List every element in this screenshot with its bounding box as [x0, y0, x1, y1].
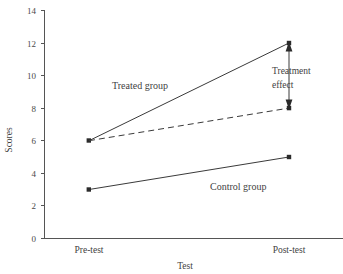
series-label-control-group: Control group: [210, 181, 266, 192]
treatment-effect-annotation: Treatment effect: [272, 42, 311, 110]
y-axis-ticks: [41, 11, 45, 239]
y-tick-label-10: 10: [27, 71, 37, 81]
x-tick-label-post-test: Post-test: [273, 245, 306, 255]
y-tick-label-14: 14: [27, 6, 37, 16]
y-tick-label-0: 0: [32, 234, 37, 244]
y-tick-label-2: 2: [32, 201, 37, 211]
chart-figure: 14 12 10 8 6 4 2 0 Pre-test Post-test Te…: [0, 0, 343, 274]
y-axis-tick-labels: 14 12 10 8 6 4 2 0: [27, 6, 37, 244]
series-treated-group: [87, 41, 292, 143]
line-chart-canvas: 14 12 10 8 6 4 2 0 Pre-test Post-test Te…: [0, 0, 343, 274]
y-axis-title: Scores: [4, 127, 14, 153]
y-tick-label-4: 4: [32, 169, 37, 179]
y-tick-label-8: 8: [32, 104, 37, 114]
treated-group-line: [89, 43, 289, 141]
series-label-treated-group: Treated group: [112, 80, 168, 91]
x-axis-tick-labels: Pre-test Post-test: [74, 245, 305, 255]
treatment-effect-label-line2: effect: [272, 80, 294, 90]
y-tick-label-12: 12: [27, 39, 36, 49]
x-tick-label-pre-test: Pre-test: [74, 245, 103, 255]
control-group-point-post-test: [287, 155, 291, 159]
axes-group: [45, 10, 343, 239]
projected-baseline-line: [89, 108, 289, 141]
treatment-effect-arrow-head-up: [286, 42, 293, 52]
control-group-point-pre-test: [87, 187, 91, 191]
series-projected-baseline: [89, 106, 291, 141]
y-tick-label-6: 6: [32, 136, 37, 146]
treatment-effect-label-line1: Treatment: [272, 66, 311, 76]
x-axis-title: Test: [177, 261, 193, 271]
